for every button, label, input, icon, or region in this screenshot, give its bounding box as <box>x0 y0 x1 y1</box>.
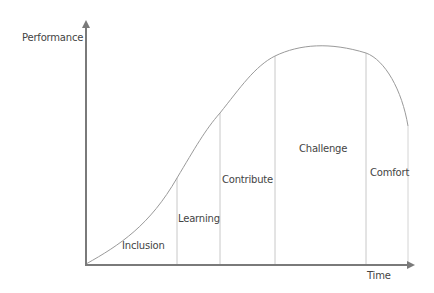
diagram-canvas <box>0 0 434 293</box>
y-axis-label: Performance <box>22 32 83 43</box>
phase-label-comfort: Comfort <box>370 167 409 178</box>
y-axis-arrow-icon <box>82 20 90 28</box>
performance-curve <box>86 46 408 264</box>
phase-label-contribute: Contribute <box>222 174 273 185</box>
x-axis-arrow-icon <box>407 261 415 269</box>
x-axis-label: Time <box>367 270 391 281</box>
phase-label-inclusion: Inclusion <box>122 240 165 251</box>
phase-label-learning: Learning <box>178 213 220 224</box>
phase-label-challenge: Challenge <box>299 143 347 154</box>
performance-curve-diagram: Performance Time Inclusion Learning Cont… <box>0 0 434 293</box>
